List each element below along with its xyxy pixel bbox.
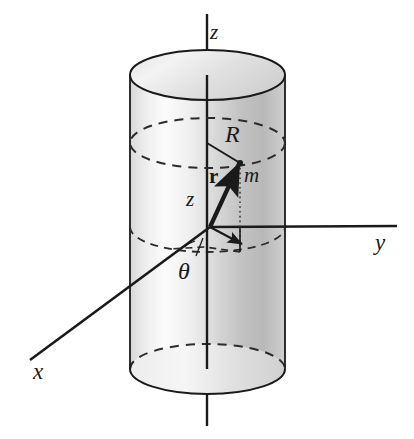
y-axis-line: [210, 226, 397, 227]
z-axis-top-label: z: [210, 22, 218, 43]
position-vector-label: r: [209, 166, 218, 187]
x-axis-label: x: [33, 360, 43, 383]
cylindrical-coordinates-figure: z R r m z y θ x: [0, 0, 414, 439]
radius-R-label: R: [225, 122, 240, 146]
z-height-label: z: [186, 189, 194, 210]
theta-angle-label: θ: [178, 259, 190, 283]
diagram-canvas: [0, 0, 414, 439]
y-axis-label: y: [375, 231, 385, 254]
mass-point-m: [237, 160, 243, 166]
mass-m-label: m: [244, 165, 259, 186]
